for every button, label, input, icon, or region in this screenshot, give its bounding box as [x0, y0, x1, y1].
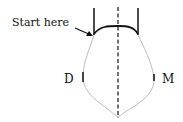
mesial-label: M	[162, 72, 174, 86]
top-arc	[94, 26, 138, 34]
start-here-label: Start here	[12, 16, 69, 29]
diagram-canvas: Start here D M	[0, 0, 183, 122]
distal-label: D	[64, 72, 74, 86]
